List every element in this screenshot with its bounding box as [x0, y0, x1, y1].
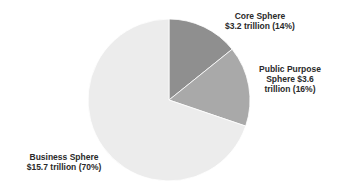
label-business-name: Business Sphere [14, 152, 114, 162]
label-business-sphere: Business Sphere $15.7 trillion (70%) [14, 152, 114, 172]
label-core-value: $3.2 trillion (14%) [212, 21, 308, 31]
label-public-name-2: Sphere $3.6 [250, 74, 330, 84]
label-core-name: Core Sphere [212, 11, 308, 21]
label-public-name: Public Purpose [250, 64, 330, 74]
label-public-value: trillion (16%) [250, 84, 330, 94]
label-core-sphere: Core Sphere $3.2 trillion (14%) [212, 11, 308, 31]
label-public-purpose-sphere: Public Purpose Sphere $3.6 trillion (16%… [250, 64, 330, 94]
label-business-value: $15.7 trillion (70%) [14, 162, 114, 172]
